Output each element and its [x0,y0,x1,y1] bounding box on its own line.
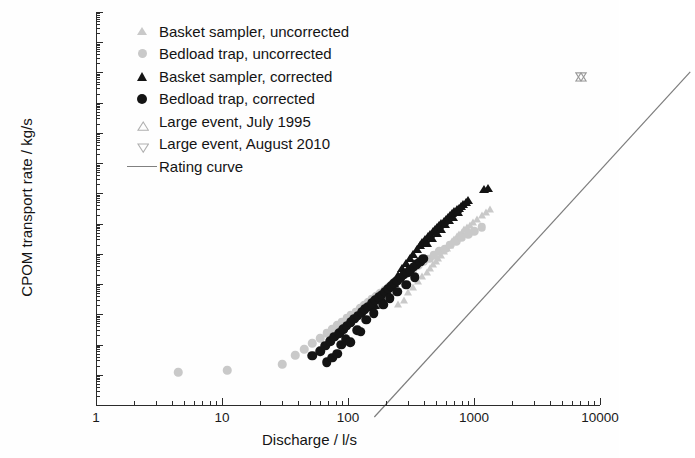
legend-marker-circle-icon [125,49,159,58]
y-tick-minor [96,239,100,240]
y-tick-minor [96,124,100,125]
x-tick-minor [298,401,299,405]
y-tick-minor [96,228,100,229]
legend-marker-triangle-up-icon [125,27,159,35]
y-tick-minor [96,165,100,166]
y-tick-minor [96,179,100,180]
y-tick-minor [96,349,100,350]
y-tick-minor [96,321,100,322]
y-tick-minor [96,227,100,228]
data-point [483,184,493,192]
legend-label: Basket sampler, corrected [159,68,332,85]
y-tick-minor [96,63,100,64]
y-tick-minor [96,168,100,169]
x-tick-minor [194,401,195,405]
legend-item: Rating curve [125,155,425,178]
x-tick-minor [424,401,425,405]
y-tick-minor [96,323,100,324]
y-tick-minor [96,112,100,113]
y-tick-minor [96,17,100,18]
data-point [477,223,486,232]
y-tick-minor [96,261,100,262]
data-point [419,254,429,264]
y-tick-minor [96,198,100,199]
y-tick-minor [96,236,100,237]
legend-label: Large event, August 2010 [159,135,330,152]
y-tick-minor [96,94,100,95]
x-tick-minor [408,401,409,405]
legend-label: Rating curve [159,158,243,175]
legend-marker-circle-icon [125,94,159,104]
x-tick-minor [202,401,203,405]
x-tick-minor [594,401,595,405]
y-tick-minor [96,74,100,75]
y-tick-minor [96,291,100,292]
y-tick-minor [96,259,100,260]
x-tick-minor [562,401,563,405]
x-tick-minor [436,401,437,405]
y-tick-minor [96,175,100,176]
y-tick-minor [96,305,100,306]
y-tick-minor [96,109,100,110]
y-tick-minor [96,54,100,55]
y-tick-minor [96,209,100,210]
legend-label: Bedload trap, uncorrected [159,45,332,62]
x-tick-major [96,398,97,405]
y-tick-minor [96,77,100,78]
x-tick-minor [320,401,321,405]
data-point [486,205,494,212]
x-tick-label: 100 [337,410,360,425]
data-point [453,208,463,216]
y-tick-minor [96,28,100,29]
x-tick-label: 1 [92,410,100,425]
y-tick-minor [96,366,100,367]
x-tick-minor [512,401,513,405]
y-tick-minor [96,118,100,119]
y-tick-minor [96,13,100,14]
y-tick-minor [96,84,100,85]
data-point [300,345,309,354]
x-tick-minor [282,401,283,405]
x-tick-minor [550,401,551,405]
data-point [463,196,473,204]
y-tick-minor [96,107,100,108]
y-tick-minor [96,202,100,203]
y-tick-minor [96,215,100,216]
data-point [400,296,408,303]
legend-marker-triangle-down-icon [125,140,159,148]
data-point [410,272,420,282]
data-point [332,349,342,359]
y-tick-minor [96,24,100,25]
data-point [392,287,402,297]
x-tick-minor [184,401,185,405]
y-tick-minor [96,15,100,16]
x-tick-minor [534,401,535,405]
y-tick-minor [96,142,100,143]
x-tick-minor [172,401,173,405]
y-tick-minor [96,115,100,116]
y-tick-minor [96,58,100,59]
y-tick-minor [96,200,100,201]
data-point [174,368,183,377]
y-tick-minor [96,376,100,377]
y-tick-minor [96,319,100,320]
y-tick-minor [96,396,100,397]
y-tick-minor [96,33,100,34]
data-point [345,337,355,347]
y-tick-minor [96,360,100,361]
x-axis-title: Discharge / l/s [0,431,619,448]
y-tick-minor [96,79,100,80]
x-tick-minor [386,401,387,405]
y-tick-minor [96,296,100,297]
y-tick-minor [96,351,100,352]
y-tick-minor [96,170,100,171]
y-tick-minor [96,317,100,318]
legend-label: Large event, July 1995 [159,113,311,130]
legend-item: Bedload trap, uncorrected [125,43,425,66]
x-tick-minor [468,401,469,405]
y-tick-minor [96,49,100,50]
x-tick-major [600,398,601,405]
x-tick-minor [446,401,447,405]
legend-item: Basket sampler, uncorrected [125,20,425,43]
y-tick-minor [96,354,100,355]
